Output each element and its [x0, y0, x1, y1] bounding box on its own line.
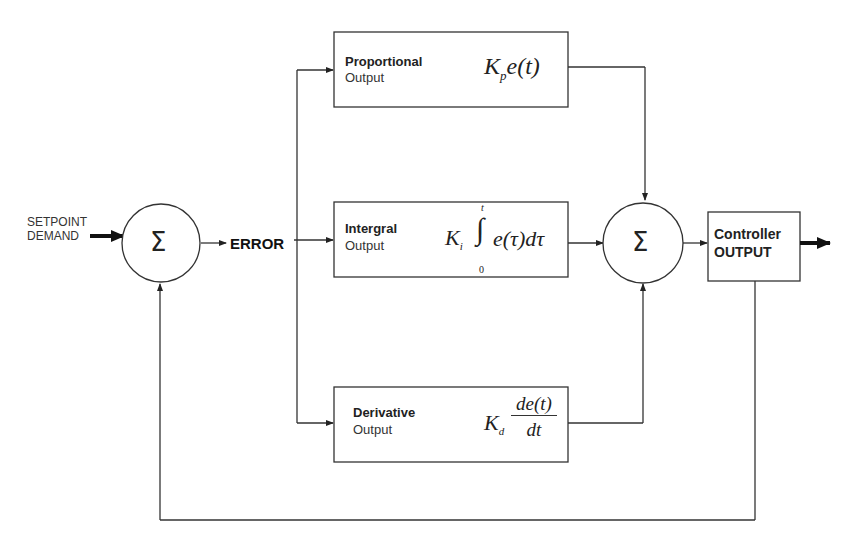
gain-subscript: i [460, 240, 463, 252]
integral-subtitle: Output [345, 238, 384, 253]
diagram-lines [0, 0, 857, 545]
derivative-numerator: de(t) [511, 393, 557, 416]
integral-body: e(τ)dτ [493, 226, 544, 252]
sigma-icon-1: Σ [150, 227, 166, 257]
gain-k: K [484, 53, 500, 79]
proportional-subtitle: Output [345, 70, 384, 85]
derivative-subtitle: Output [353, 422, 392, 437]
gain-k: K [445, 225, 460, 250]
integral-lower-limit: 0 [479, 264, 484, 275]
demand-label: DEMAND [27, 230, 79, 243]
pid-diagram: SETPOINT DEMAND Σ ERROR Proportional Out… [0, 0, 857, 545]
proportional-title: Proportional [345, 54, 422, 69]
integral-sign-icon: ∫ [476, 212, 484, 246]
controller-label: Controller [714, 226, 781, 242]
integral-gain: Ki [445, 225, 463, 252]
gain-k: K [484, 410, 499, 435]
error-label: ERROR [230, 235, 284, 252]
proportional-formula: Kpe(t) [484, 53, 540, 84]
derivative-title: Derivative [353, 405, 415, 420]
sigma-icon-2: Σ [632, 227, 648, 257]
integral-title: Intergral [345, 221, 397, 236]
output-label: OUTPUT [714, 244, 772, 260]
gain-subscript: d [499, 425, 505, 437]
integral-upper-limit: t [481, 202, 484, 213]
setpoint-label: SETPOINT [27, 216, 87, 229]
derivative-denominator: dt [511, 419, 557, 441]
formula-body: e(t) [507, 53, 540, 79]
derivative-gain: Kd [484, 410, 504, 437]
